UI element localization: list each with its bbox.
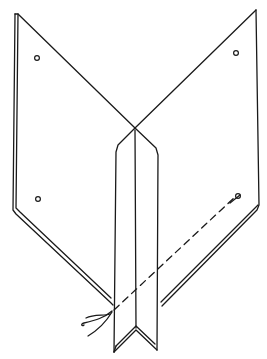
thread-tails — [82, 311, 112, 336]
hole-bottom-left-icon — [36, 197, 41, 202]
right-panel — [135, 10, 259, 306]
left-panel — [13, 14, 135, 305]
hole-top-left-icon — [35, 56, 40, 61]
folded-pattern-drawing — [0, 0, 267, 359]
diagram-canvas — [0, 0, 267, 359]
hole-top-right-icon — [234, 51, 239, 56]
center-strip — [114, 128, 158, 352]
